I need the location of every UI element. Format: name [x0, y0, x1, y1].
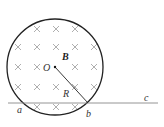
field-label: B — [61, 51, 69, 62]
radius-label: R — [62, 88, 69, 99]
magnetic-field-diagram: O B R a b c — [0, 0, 164, 127]
point-a-label: a — [17, 104, 22, 115]
point-c-label: c — [144, 92, 149, 103]
center-label: O — [43, 62, 50, 73]
center-dot — [54, 66, 56, 68]
radius-line — [55, 67, 88, 103]
point-b-label: b — [86, 108, 91, 119]
